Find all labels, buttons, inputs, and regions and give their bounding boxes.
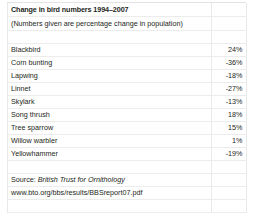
subtitle-row-empty-cell bbox=[211, 17, 246, 31]
title-row-empty-cell bbox=[211, 3, 246, 17]
species-change-value: 18% bbox=[211, 109, 246, 122]
table-row-title: Change in bird numbers 1994–2007 bbox=[8, 3, 246, 17]
table-row: Corn bunting -36% bbox=[8, 57, 246, 70]
spacer-cell-left bbox=[8, 161, 211, 174]
species-name: Linnet bbox=[8, 83, 211, 96]
spacer-cell-right bbox=[211, 31, 246, 44]
table-row-subtitle: (Numbers given are percentage change in … bbox=[8, 17, 246, 31]
spacer-cell-right bbox=[211, 161, 246, 174]
species-change-value: -36% bbox=[211, 57, 246, 70]
table-row: Song thrush 18% bbox=[8, 109, 246, 122]
species-change-value: 15% bbox=[211, 122, 246, 135]
bird-numbers-table: Change in bird numbers 1994–2007 (Number… bbox=[8, 3, 247, 178]
table-title: Change in bird numbers 1994–2007 bbox=[8, 3, 211, 17]
species-change-value: -13% bbox=[211, 96, 246, 109]
table-row: Blackbird 24% bbox=[8, 44, 246, 57]
source-organisation: British Trust for Ornithology bbox=[38, 175, 125, 178]
table-row-spacer-top bbox=[8, 31, 246, 44]
table-row: Tree sparrow 15% bbox=[8, 122, 246, 135]
species-change-value: -18% bbox=[211, 70, 246, 83]
table-row: Linnet -27% bbox=[8, 83, 246, 96]
species-name: Willow warbler bbox=[8, 135, 211, 148]
species-name: Skylark bbox=[8, 96, 211, 109]
table-body: Change in bird numbers 1994–2007 (Number… bbox=[8, 3, 246, 178]
table-row-spacer-bottom bbox=[8, 161, 246, 174]
species-change-value: 1% bbox=[211, 135, 246, 148]
table-subtitle: (Numbers given are percentage change in … bbox=[8, 17, 211, 31]
species-name: Blackbird bbox=[8, 44, 211, 57]
table-row-source: Source: British Trust for Ornithology bbox=[8, 174, 246, 179]
species-name: Song thrush bbox=[8, 109, 211, 122]
source-row-empty-cell bbox=[211, 174, 246, 179]
table-row: Willow warbler 1% bbox=[8, 135, 246, 148]
species-change-value: -27% bbox=[211, 83, 246, 96]
spacer-cell-left bbox=[8, 31, 211, 44]
species-change-value: -19% bbox=[211, 148, 246, 161]
species-name: Lapwing bbox=[8, 70, 211, 83]
species-name: Tree sparrow bbox=[8, 122, 211, 135]
table-row: Yellowhammer -19% bbox=[8, 148, 246, 161]
table-row: Skylark -13% bbox=[8, 96, 246, 109]
species-name: Corn bunting bbox=[8, 57, 211, 70]
species-name: Yellowhammer bbox=[8, 148, 211, 161]
species-change-value: 24% bbox=[211, 44, 246, 57]
table-row: Lapwing -18% bbox=[8, 70, 246, 83]
spreadsheet-table: Change in bird numbers 1994–2007 (Number… bbox=[7, 2, 246, 178]
source-label: Source: bbox=[11, 175, 38, 178]
source-attribution: Source: British Trust for Ornithology bbox=[8, 174, 211, 179]
